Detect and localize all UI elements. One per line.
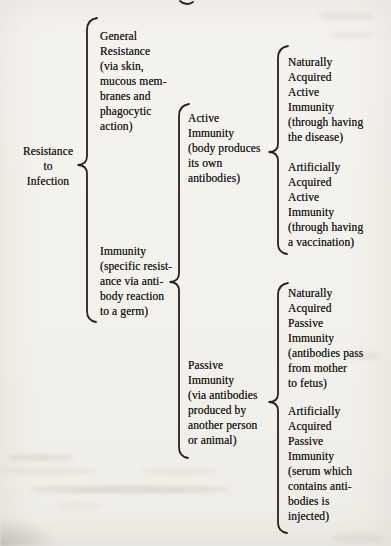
scan-smudge bbox=[318, 12, 374, 20]
page-crop-mark bbox=[180, 1, 193, 4]
brace-resistance-to-infection bbox=[78, 18, 98, 322]
scan-smudge bbox=[348, 352, 380, 360]
node-artificially-acquired-passive-immunity: ArtificiallyAcquiredPassiveImmunity(seru… bbox=[288, 404, 352, 524]
scan-smudge bbox=[55, 503, 101, 508]
node-naturally-acquired-passive-immunity: NaturallyAcquiredPassiveImmunity(antibod… bbox=[288, 286, 363, 391]
node-resistance-to-infection: ResistancetoInfection bbox=[17, 144, 79, 189]
node-naturally-acquired-active-immunity: NaturallyAcquiredActiveImmunity(through … bbox=[288, 55, 363, 145]
brace-active-immunity bbox=[269, 46, 289, 254]
node-active-immunity: ActiveImmunity(body producesits ownantib… bbox=[188, 111, 261, 186]
scan-smudge bbox=[330, 32, 372, 38]
node-immunity: Immunity(specific resist-ance via anti-b… bbox=[100, 244, 172, 319]
scan-smudge bbox=[140, 469, 218, 474]
scan-smudge bbox=[330, 534, 385, 542]
page-corner-shadow bbox=[0, 516, 60, 546]
brace-immunity bbox=[170, 104, 190, 458]
node-passive-immunity: PassiveImmunity(via antibodiesproduced b… bbox=[188, 358, 258, 448]
scan-smudge bbox=[30, 486, 230, 493]
node-general-resistance: GeneralResistance(via skin,mucous mem-br… bbox=[100, 29, 167, 134]
scan-smudge bbox=[8, 455, 74, 460]
node-artificially-acquired-active-immunity: ArtificiallyAcquiredActiveImmunity(throu… bbox=[288, 160, 363, 250]
scan-smudge bbox=[0, 468, 98, 474]
brace-passive-immunity bbox=[269, 283, 289, 533]
brace-map-diagram: ResistancetoInfection GeneralResistance(… bbox=[0, 0, 391, 546]
